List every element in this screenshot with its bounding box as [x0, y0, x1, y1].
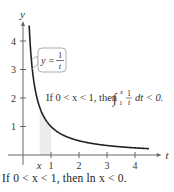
- y-axis-arrow: [21, 21, 25, 26]
- callout-pointer: [32, 56, 38, 69]
- y-tick-label: 1: [11, 121, 16, 132]
- integral-annotation: If 0 < x < 1, then ∫ x 1 1 t dt < 0.: [46, 88, 163, 107]
- y-axis-label: y: [19, 8, 25, 20]
- curve-label: y = 1 t: [32, 48, 66, 72]
- curve-label-lhs: y =: [40, 55, 55, 66]
- integral-upper: x: [119, 88, 124, 96]
- x-tick-label: 4: [133, 160, 138, 171]
- shaded-area: [40, 108, 51, 156]
- chart: 12341234 t y x y = 1 t If 0 < x < 1, the…: [0, 0, 174, 192]
- y-tick-label: 4: [11, 36, 16, 47]
- x-marker-label: x: [36, 159, 42, 171]
- x-tick-label: 1: [49, 160, 54, 171]
- integral-lower: 1: [119, 99, 123, 107]
- caption: If 0 < x < 1, then ln x < 0.: [2, 172, 127, 184]
- y-tick-label: 2: [11, 93, 16, 104]
- x-tick-label: 2: [77, 160, 82, 171]
- y-tick-label: 3: [11, 64, 16, 75]
- annotation-suffix: dt < 0.: [135, 92, 163, 103]
- curve-label-num: 1: [58, 50, 62, 60]
- integrand-num: 1: [127, 89, 131, 98]
- annotation-prefix: If 0 < x < 1, then: [46, 92, 118, 103]
- integrand-den: t: [128, 98, 131, 107]
- x-tick-label: 3: [105, 160, 110, 171]
- x-axis-arrow: [157, 153, 162, 157]
- x-axis-label: t: [166, 149, 170, 161]
- integral-sign-icon: ∫: [112, 91, 118, 107]
- shaded-region: [40, 108, 51, 156]
